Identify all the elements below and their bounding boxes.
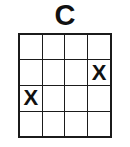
grid-cell-r4c1[interactable] xyxy=(19,111,42,137)
cell-mark-x: X xyxy=(88,61,110,85)
grid-cell-r3c4[interactable] xyxy=(88,86,111,112)
grid-cell-r1c3[interactable] xyxy=(65,34,88,60)
grid-cell-r1c1[interactable] xyxy=(19,34,42,60)
grid-cell-r4c4[interactable] xyxy=(88,111,111,137)
grid-cell-r2c4[interactable]: X xyxy=(88,60,111,86)
grid-row xyxy=(19,34,111,60)
chord-grid-body: X X xyxy=(19,34,111,137)
grid-cell-r2c1[interactable] xyxy=(19,60,42,86)
chord-diagram-canvas: C X X xyxy=(0,0,130,147)
grid-row xyxy=(19,111,111,137)
grid-cell-r1c4[interactable] xyxy=(88,34,111,60)
grid-cell-r1c2[interactable] xyxy=(42,34,65,60)
grid-cell-r2c2[interactable] xyxy=(42,60,65,86)
grid-cell-r4c3[interactable] xyxy=(65,111,88,137)
grid-cell-r3c2[interactable] xyxy=(42,86,65,112)
grid-cell-r3c1[interactable]: X xyxy=(19,86,42,112)
grid-cell-r3c3[interactable] xyxy=(65,86,88,112)
grid-row: X xyxy=(19,86,111,112)
cell-mark-x: X xyxy=(20,86,42,110)
grid-cell-r2c3[interactable] xyxy=(65,60,88,86)
grid-row: X xyxy=(19,60,111,86)
diagram-title: C xyxy=(0,1,130,30)
grid-cell-r4c2[interactable] xyxy=(42,111,65,137)
chord-grid: X X xyxy=(18,33,112,138)
chord-grid-container: X X xyxy=(18,33,112,138)
